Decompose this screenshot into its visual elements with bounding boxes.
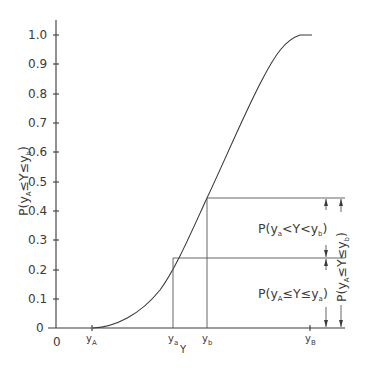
x-marker-yA: yA — [86, 333, 97, 347]
lower-interval-label: P(yA≤Y≤ya) — [258, 286, 328, 303]
y-tick-0.7: 0.7 — [28, 116, 47, 130]
interval-arrows-inner — [324, 199, 328, 327]
y-tick-0.1: 0.1 — [28, 292, 47, 306]
upper-interval-label: P(ya<Y<yb) — [258, 221, 327, 238]
y-tick-0.2: 0.2 — [28, 263, 47, 277]
y-tick-0.8: 0.8 — [28, 87, 47, 101]
y-tick-0.9: 0.9 — [28, 57, 47, 71]
x-origin-label: 0 — [53, 335, 61, 349]
y-tick-1.0: 1.0 — [28, 28, 47, 42]
y-tick-0.3: 0.3 — [28, 233, 47, 247]
y-tick-0: 0 — [36, 321, 44, 335]
x-axis-label: Y — [179, 344, 187, 355]
total-interval-label: P(yA≤Y≤yb) — [334, 232, 351, 302]
cdf-diagram: 0 0.1 0.2 0.3 0.4 0.5 0.6 0.7 0.8 0.9 1.… — [0, 0, 365, 371]
y-axis-label: P(yA≤Y≤yb) — [16, 146, 33, 216]
x-marker-yB: yB — [305, 333, 316, 347]
svg-text:P(yA≤Y≤yb): P(yA≤Y≤yb) — [334, 232, 351, 302]
x-marker-ya: ya — [168, 333, 178, 347]
x-marker-yb: yb — [202, 333, 213, 347]
cdf-curve — [93, 35, 312, 328]
svg-text:P(yA≤Y≤yb): P(yA≤Y≤yb) — [16, 146, 33, 216]
